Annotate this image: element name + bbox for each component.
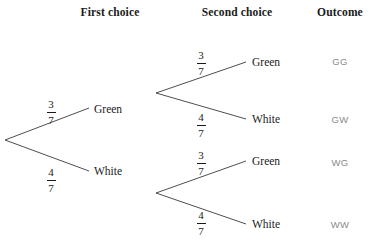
probability-second-white-white: 4 7	[188, 210, 214, 237]
node-first-green: Green	[94, 103, 122, 115]
node-second-white-white: White	[252, 218, 280, 230]
fraction-denominator: 7	[188, 225, 214, 237]
node-second-white-green: Green	[252, 155, 280, 167]
outcome-ww: WW	[320, 219, 360, 230]
fraction-numerator: 3	[188, 150, 214, 162]
probability-first-green: 3 7	[38, 99, 64, 126]
fraction-numerator: 4	[188, 112, 214, 124]
probability-second-white-green: 3 7	[188, 150, 214, 177]
fraction-bar	[47, 112, 56, 113]
probability-first-white: 4 7	[38, 167, 64, 194]
fraction-bar	[197, 223, 206, 224]
fraction-numerator: 4	[38, 167, 64, 179]
fraction-bar	[197, 63, 206, 64]
fraction-bar	[197, 125, 206, 126]
fraction-denominator: 7	[188, 127, 214, 139]
fraction-numerator: 3	[188, 50, 214, 62]
fraction-denominator: 7	[38, 182, 64, 194]
outcome-gw: GW	[320, 114, 360, 125]
node-first-white: White	[94, 165, 122, 177]
fraction-numerator: 4	[188, 210, 214, 222]
probability-tree-diagram: First choice Second choice Outcome Green…	[0, 0, 374, 243]
fraction-denominator: 7	[38, 114, 64, 126]
outcome-wg: WG	[320, 157, 360, 168]
node-second-green-green: Green	[252, 56, 280, 68]
fraction-denominator: 7	[188, 165, 214, 177]
node-second-green-white: White	[252, 113, 280, 125]
fraction-bar	[197, 163, 206, 164]
fraction-bar	[47, 180, 56, 181]
probability-second-green-white: 4 7	[188, 112, 214, 139]
outcome-gg: GG	[320, 56, 360, 67]
probability-second-green-green: 3 7	[188, 50, 214, 77]
fraction-numerator: 3	[38, 99, 64, 111]
fraction-denominator: 7	[188, 65, 214, 77]
